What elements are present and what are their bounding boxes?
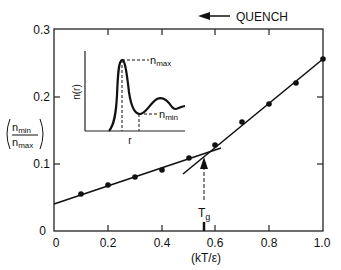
x-axis-label: (kT/ε) bbox=[191, 251, 221, 265]
y-tick-label: 0 bbox=[39, 224, 46, 238]
tg-marker: Tg bbox=[198, 157, 210, 231]
svg-text:nmax: nmax bbox=[150, 54, 171, 68]
svg-text:Tg: Tg bbox=[198, 206, 210, 222]
x-tick-label: 0.4 bbox=[154, 236, 171, 250]
svg-text:nmax: nmax bbox=[12, 136, 33, 150]
y-axis-label: nmin nmax bbox=[7, 119, 43, 150]
quench-label: QUENCH bbox=[236, 10, 288, 24]
data-points bbox=[78, 56, 326, 197]
svg-text:n(r): n(r) bbox=[71, 84, 82, 100]
y-tick-label: 0.3 bbox=[33, 23, 50, 37]
x-tick-label: 0 bbox=[53, 236, 60, 250]
y-tick-label: 0.1 bbox=[33, 157, 50, 171]
x-tick-labels: 0 0.2 0.4 0.6 0.8 1.0 bbox=[53, 236, 331, 250]
x-tick-label: 0.2 bbox=[100, 236, 117, 250]
x-tick-label: 0.8 bbox=[261, 236, 278, 250]
x-tick-label: 0.6 bbox=[207, 236, 224, 250]
y-tick-label: 0.2 bbox=[33, 90, 50, 104]
inset-rdf: nmax nmin r n(r) bbox=[71, 51, 185, 146]
svg-text:nmin: nmin bbox=[159, 108, 178, 122]
x-axis bbox=[108, 29, 269, 231]
high-t-fit-line bbox=[183, 59, 323, 174]
svg-text:r: r bbox=[128, 135, 132, 146]
y-tick-labels: 0 0.1 0.2 0.3 bbox=[33, 23, 50, 238]
plot-frame bbox=[54, 29, 323, 231]
x-tick-label: 1.0 bbox=[314, 236, 331, 250]
left-arrow-icon bbox=[198, 12, 210, 20]
svg-text:nmin: nmin bbox=[12, 121, 31, 135]
chart: QUENCH 0 0.2 0.4 0.6 0.8 1.0 (kT/ε) 0 0.… bbox=[0, 0, 341, 270]
quench-annotation: QUENCH bbox=[198, 10, 288, 24]
